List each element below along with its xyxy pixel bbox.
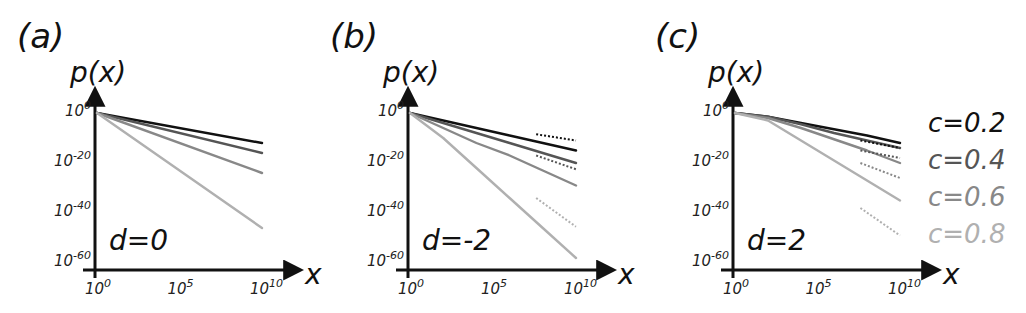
asymptote-line (536, 198, 576, 227)
asymptote-line (860, 163, 900, 178)
y-axis-title: p(x) (69, 56, 126, 89)
y-tick-label: 100 (65, 99, 91, 120)
x-tick-label: 105 (168, 277, 194, 298)
y-tick-label: 10-20 (54, 149, 91, 170)
y-tick-label: 10-40 (54, 199, 91, 220)
panel-b: (b)p(x)x10010-2010-4010-601001051010d=-2 (330, 16, 635, 298)
y-tick-label: 10-20 (692, 149, 729, 170)
x-tick-label: 1010 (564, 277, 597, 298)
legend-item: c=0.8 (928, 219, 1005, 249)
legend-item: c=0.4 (928, 145, 1005, 175)
x-axis-title: x (942, 258, 960, 291)
panel-label: (a) (17, 16, 64, 56)
series-line (97, 113, 262, 153)
series-line (410, 113, 576, 186)
d-label: d=-2 (422, 224, 491, 257)
y-tick-label: 10-60 (367, 249, 404, 270)
d-label: d=0 (109, 224, 168, 257)
y-tick-label: 10-60 (54, 249, 91, 270)
y-tick-label: 10-60 (692, 249, 729, 270)
x-axis-title: x (304, 258, 322, 291)
x-tick-label: 1010 (250, 277, 283, 298)
y-tick-label: 100 (703, 99, 729, 120)
y-axis-title: p(x) (707, 56, 764, 89)
panel-label: (b) (330, 16, 378, 56)
x-tick-label: 105 (481, 277, 507, 298)
series-line (97, 113, 262, 228)
figure: (a)p(x)x10010-2010-4010-601001051010d=0(… (0, 0, 1026, 313)
series-line (410, 113, 576, 163)
y-tick-label: 10-40 (692, 199, 729, 220)
x-tick-label: 105 (806, 277, 832, 298)
asymptote-line (536, 134, 576, 140)
x-tick-label: 100 (85, 277, 111, 298)
legend-item: c=0.6 (928, 182, 1005, 212)
legend: c=0.2c=0.4c=0.6c=0.8 (928, 108, 1005, 249)
y-tick-label: 10-20 (367, 149, 404, 170)
panel-c: (c)p(x)x10010-2010-4010-601001051010d=2 (655, 16, 960, 298)
series-line (97, 113, 262, 143)
y-tick-label: 10-40 (367, 199, 404, 220)
d-label: d=2 (747, 224, 806, 257)
asymptote-line (860, 208, 900, 236)
panel-a: (a)p(x)x10010-2010-4010-601001051010d=0 (17, 16, 322, 298)
x-tick-label: 1010 (888, 277, 921, 298)
x-tick-label: 100 (398, 277, 424, 298)
legend-item: c=0.2 (928, 108, 1005, 138)
x-axis-title: x (617, 258, 635, 291)
y-tick-label: 100 (378, 99, 404, 120)
series-line (97, 113, 262, 173)
asymptote-line (860, 151, 900, 159)
y-axis-title: p(x) (382, 56, 439, 89)
panel-label: (c) (655, 16, 700, 56)
x-tick-label: 100 (723, 277, 749, 298)
